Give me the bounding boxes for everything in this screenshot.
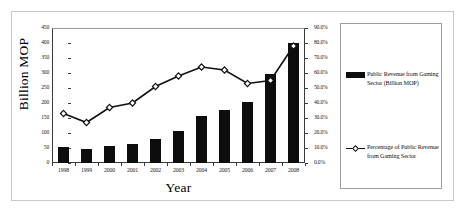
y-right-tickmark bbox=[305, 58, 308, 59]
y-right-tickmark bbox=[305, 148, 308, 149]
x-tickmark bbox=[259, 163, 260, 166]
y-right-tick-30.0%: 30.0% bbox=[314, 115, 327, 121]
y-left-tick-100: 100 bbox=[41, 130, 49, 136]
x-tickmark bbox=[305, 163, 306, 166]
y-right-tickmark bbox=[305, 73, 308, 74]
x-tick-2003: 2003 bbox=[167, 166, 190, 174]
x-tick-2006: 2006 bbox=[236, 166, 259, 174]
legend-item-percentage: Percentage of Public Revenue from Gaming… bbox=[346, 143, 440, 160]
y-right-tick-20.0%: 20.0% bbox=[314, 130, 327, 136]
y-right-tick-40.0%: 40.0% bbox=[314, 100, 327, 106]
y-right-tick-80.0%: 80.0% bbox=[314, 40, 327, 46]
y-left-tick-400: 400 bbox=[41, 40, 49, 46]
plot-area bbox=[52, 28, 305, 163]
x-tickmark bbox=[98, 163, 99, 166]
y-right-tick-90.0%: 90.0% bbox=[314, 25, 327, 31]
y-axis-title: Billion MOP bbox=[16, 14, 32, 134]
x-tickmark bbox=[167, 163, 168, 166]
y-right-tickmark bbox=[305, 28, 308, 29]
y-right-tickmark bbox=[305, 88, 308, 89]
y-left-tick-250: 250 bbox=[41, 85, 49, 91]
x-tickmark bbox=[236, 163, 237, 166]
line-marker-2003 bbox=[175, 73, 181, 79]
y-right-tick-60.0%: 60.0% bbox=[314, 70, 327, 76]
line-marker-swatch-icon bbox=[346, 145, 365, 152]
y-right-tick-70.0%: 70.0% bbox=[314, 55, 327, 61]
bar-swatch-icon bbox=[346, 72, 365, 78]
x-axis-title: Year bbox=[52, 180, 305, 196]
x-tick-2007: 2007 bbox=[259, 166, 282, 174]
x-tick-2002: 2002 bbox=[144, 166, 167, 174]
y-right-tickmark bbox=[305, 103, 308, 104]
x-tickmark bbox=[282, 163, 283, 166]
y-left-tick-350: 350 bbox=[41, 55, 49, 61]
x-tickmark bbox=[213, 163, 214, 166]
x-tick-1999: 1999 bbox=[75, 166, 98, 174]
x-tickmark bbox=[190, 163, 191, 166]
y-right-tickmark bbox=[305, 118, 308, 119]
y-left-tick-150: 150 bbox=[41, 115, 49, 121]
legend-item-label: Public Revenue from Gaming Sector (Billi… bbox=[367, 70, 440, 87]
x-tick-2000: 2000 bbox=[98, 166, 121, 174]
y-right-tickmark bbox=[305, 43, 308, 44]
x-tick-2005: 2005 bbox=[213, 166, 236, 174]
y-left-tick-300: 300 bbox=[41, 70, 49, 76]
legend-item-public-revenue: Public Revenue from Gaming Sector (Billi… bbox=[346, 70, 440, 87]
y-right-tick-10.0%: 10.0% bbox=[314, 145, 327, 151]
y-left-tickmark bbox=[68, 163, 71, 164]
legend-item-label: Percentage of Public Revenue from Gaming… bbox=[367, 143, 440, 160]
line-series-layer bbox=[52, 28, 305, 163]
y-right-tick-0.0%: 0.0% bbox=[314, 160, 325, 166]
chart-legend: Public Revenue from Gaming Sector (Billi… bbox=[340, 23, 442, 189]
y-left-tick-50: 50 bbox=[44, 145, 49, 151]
line-marker-1998 bbox=[60, 110, 66, 116]
y-left-tick-0: 0 bbox=[46, 160, 49, 166]
x-tickmark bbox=[121, 163, 122, 166]
y-right-tickmark bbox=[305, 133, 308, 134]
x-tick-2001: 2001 bbox=[121, 166, 144, 174]
line-path bbox=[64, 46, 294, 123]
x-tick-1998: 1998 bbox=[52, 166, 75, 174]
chart-figure: 050100150200250300350400450 0.0%10.0%20.… bbox=[0, 0, 467, 220]
x-tick-2008: 2008 bbox=[282, 166, 305, 174]
y-axis-right-ticks: 0.0%10.0%20.0%30.0%40.0%50.0%60.0%70.0%8… bbox=[305, 20, 345, 171]
x-tickmark bbox=[52, 163, 53, 166]
x-tick-2004: 2004 bbox=[190, 166, 213, 174]
x-axis-tick-labels: 1998199920002001200220032004200520062007… bbox=[52, 166, 305, 178]
y-left-tick-450: 450 bbox=[41, 25, 49, 31]
x-tickmark bbox=[144, 163, 145, 166]
line-marker-2004 bbox=[198, 64, 204, 70]
percentage-line-series bbox=[52, 28, 305, 163]
y-right-tick-50.0%: 50.0% bbox=[314, 85, 327, 91]
x-tickmark bbox=[75, 163, 76, 166]
y-left-tick-200: 200 bbox=[41, 100, 49, 106]
